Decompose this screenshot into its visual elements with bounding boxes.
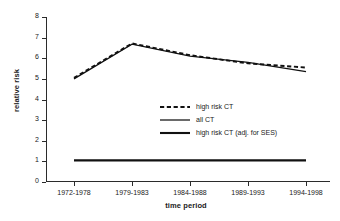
x-axis-tick-label: 1989-1993 [218, 189, 278, 196]
x-axis-tick [132, 182, 133, 186]
x-axis-tick [74, 182, 75, 186]
x-axis-tick-label: 1984-1988 [160, 189, 220, 196]
y-axis-tick-label: 3 [35, 115, 39, 122]
legend-item: high risk CT (adj. for SES) [160, 126, 335, 139]
x-axis-tick-label: 1994-1998 [276, 189, 336, 196]
y-axis-tick: 0 [42, 182, 46, 183]
y-axis-tick-label: 8 [35, 12, 39, 19]
y-axis-tick-label: 0 [35, 177, 39, 184]
legend-swatch-solid-icon [160, 116, 190, 124]
y-axis-title: relative risk [12, 41, 21, 141]
y-axis-tick-label: 5 [35, 74, 39, 81]
legend-label: high risk CT (adj. for SES) [196, 129, 277, 136]
legend-label: all CT [196, 116, 214, 123]
series-line-high-risk-ct [74, 43, 306, 77]
series-line-all-ct [74, 44, 306, 79]
chart-figure: relative risk time period 012345678 1972… [0, 0, 340, 221]
y-axis-tick-label: 7 [35, 33, 39, 40]
y-axis-tick-label: 2 [35, 136, 39, 143]
x-axis-tick [306, 182, 307, 186]
chart-legend: high risk CTall CThigh risk CT (adj. for… [160, 100, 335, 139]
y-axis-tick-label: 1 [35, 156, 39, 163]
y-axis-tick-label: 6 [35, 53, 39, 60]
x-axis-tick [190, 182, 191, 186]
x-axis-tick-label: 1979-1983 [102, 189, 162, 196]
y-axis-tick-label: 4 [35, 95, 39, 102]
legend-swatch-solid-icon [160, 129, 190, 137]
legend-swatch-dashed-icon [160, 103, 190, 111]
x-axis-tick-label: 1972-1978 [44, 189, 104, 196]
legend-label: high risk CT [196, 103, 233, 110]
x-axis-title: time period [0, 201, 340, 210]
legend-item: high risk CT [160, 100, 335, 113]
legend-item: all CT [160, 113, 335, 126]
x-axis-tick [248, 182, 249, 186]
